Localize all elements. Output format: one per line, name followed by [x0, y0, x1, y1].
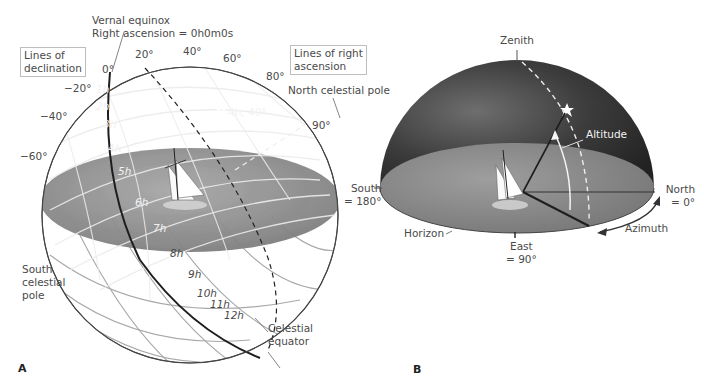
south-celestial-pole-line1: South — [22, 263, 65, 276]
star-coordinates-label: 4h, 40° — [228, 106, 267, 119]
east-label: East = 90° — [506, 240, 537, 266]
declination-tick: 20° — [135, 48, 154, 61]
ra-tick: 5h — [118, 165, 131, 178]
ra-tick: 3h — [103, 118, 116, 131]
declination-tick: −60° — [20, 150, 47, 163]
ra-tick: 6h — [135, 196, 148, 209]
declination-tick: 0° — [102, 63, 114, 76]
north-line1: North — [665, 183, 695, 196]
declination-tick: 90° — [312, 119, 331, 132]
panel-letter-b: B — [413, 363, 421, 376]
ra-tick: 7h — [153, 222, 166, 235]
south-celestial-pole-line2: celestial — [22, 276, 65, 289]
ra-tick: 1h — [96, 83, 109, 96]
celestial-equator-label: Celestial equator — [268, 322, 313, 348]
lines-of-ra-line1: Lines of right — [294, 47, 363, 60]
declination-tick: −40° — [40, 110, 67, 123]
declination-tick: 40° — [183, 45, 202, 58]
lines-of-ra-line2: ascension — [294, 60, 363, 73]
horizon-label: Horizon — [404, 227, 444, 240]
south-line2: = 180° — [344, 195, 381, 208]
ra-tick: 8h — [170, 247, 183, 260]
vernal-equinox-text: Vernal equinox — [92, 14, 233, 27]
vernal-equinox-label: Vernal equinox Right ascension = 0h0m0s — [92, 14, 233, 40]
north-label: North = 0° — [665, 183, 695, 209]
north-line2: = 0° — [665, 196, 695, 209]
north-celestial-pole-label: North celestial pole — [288, 84, 390, 97]
south-celestial-pole-line3: pole — [22, 289, 65, 302]
altitude-label: Altitude — [586, 128, 627, 141]
south-label: South = 180° — [344, 182, 381, 208]
declination-tick: 80° — [266, 70, 285, 83]
declination-tick: 60° — [223, 52, 242, 65]
ra-tick: 2h — [96, 100, 109, 113]
lines-of-declination-line2: declination — [24, 62, 82, 75]
lines-of-ra-label: Lines of right ascension — [290, 45, 367, 75]
lines-of-declination-line1: Lines of — [24, 49, 82, 62]
ra-tick: 9h — [188, 268, 201, 281]
south-celestial-pole-label: South celestial pole — [22, 263, 65, 302]
ra-tick: 12h — [224, 309, 244, 322]
celestial-equator-line1: Celestial — [268, 322, 313, 335]
panel-b-dome — [374, 50, 660, 238]
lines-of-declination-label: Lines of declination — [20, 47, 86, 77]
east-line1: East — [506, 240, 537, 253]
ra-tick: 4h — [108, 142, 121, 155]
azimuth-label: Azimuth — [625, 222, 668, 235]
panel-letter-a: A — [18, 362, 27, 375]
south-line1: South — [344, 182, 381, 195]
right-ascension-zero-text: Right ascension = 0h0m0s — [92, 27, 233, 40]
zenith-label: Zenith — [500, 34, 534, 47]
celestial-equator-line2: equator — [268, 335, 313, 348]
east-line2: = 90° — [506, 253, 537, 266]
declination-tick: −20° — [64, 82, 91, 95]
